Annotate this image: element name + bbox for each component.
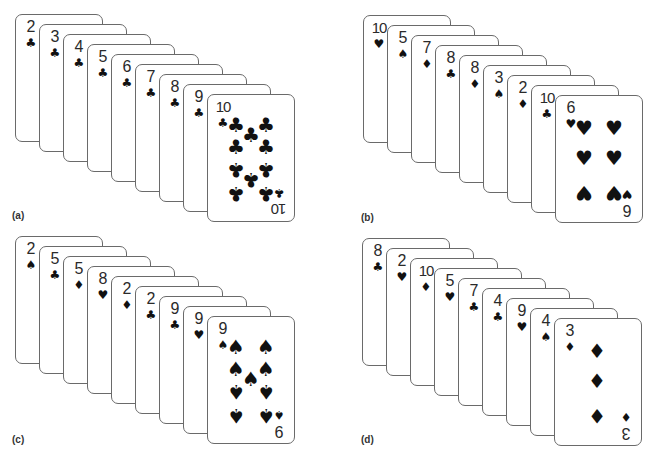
playing-card: 3♦♦♦♦3♦ [554,318,642,446]
heart-pip-icon: ♥ [573,183,595,203]
card-rank: 9 [268,423,290,440]
heart-icon: ♥ [616,187,638,200]
card-index-top: 3♦ [559,322,581,354]
panel-label: (a) [12,210,24,221]
club-pip-icon: ♣ [225,184,247,204]
club-icon: ♣ [268,186,290,199]
heart-pip-icon: ♥ [573,118,595,138]
card-index-bottom: 10♣ [268,186,290,218]
spade-pip-icon: ♠ [255,382,277,402]
card-rank: 6 [616,202,638,219]
playing-card: 9♠♠♠♠♠♠♠♠♠♠9♠ [207,316,295,444]
heart-pip-icon: ♥ [603,148,625,168]
panel-label: (d) [361,434,374,445]
diamond-pip-icon: ♦ [586,341,608,361]
spade-icon: ♠ [268,408,290,421]
club-pip-icon: ♣ [225,137,247,157]
card-rank: 3 [559,322,581,339]
heart-pip-icon: ♥ [573,148,595,168]
card-index-bottom: 3♦ [615,410,637,442]
playing-card: 10♣♣♣♣♣♣♣♣♣♣♣10♣ [207,94,295,222]
diamond-icon: ♦ [615,410,637,423]
panel-label: (b) [361,212,374,223]
diamond-pip-icon: ♦ [586,371,608,391]
club-pip-icon: ♣ [255,137,277,157]
diamond-pip-icon: ♦ [586,406,608,426]
card-rank: 6 [560,99,582,116]
spade-pip-icon: ♠ [225,406,247,426]
card-rank: 10 [268,201,290,218]
spade-pip-icon: ♠ [225,337,247,357]
panel-label: (c) [12,434,24,445]
card-index-bottom: 6♥ [616,187,638,219]
heart-pip-icon: ♥ [603,118,625,138]
card-index-bottom: 9♠ [268,408,290,440]
card-rank: 3 [615,425,637,442]
spade-pip-icon: ♠ [255,337,277,357]
diamond-icon: ♦ [559,341,581,354]
playing-card: 6♥♥♥♥♥♥♥6♥ [555,95,643,223]
spade-pip-icon: ♠ [225,382,247,402]
